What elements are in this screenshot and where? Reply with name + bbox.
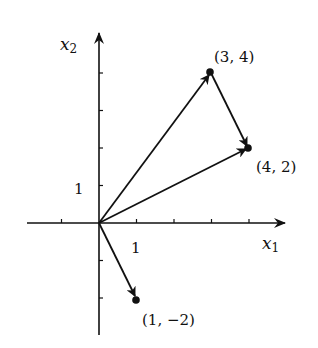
y-axis-label: x2: [60, 34, 77, 56]
vector-origin-to-1-neg2: [99, 223, 135, 296]
point-label-1-neg2: (1, −2): [142, 311, 195, 329]
x-tick-label-1: 1: [131, 239, 141, 257]
point-4-2: [244, 144, 252, 152]
vector-origin-to-3-4: [99, 75, 209, 223]
point-label-4-2: (4, 2): [256, 158, 296, 176]
point-1-neg2: [132, 296, 140, 304]
point-3-4: [206, 68, 214, 76]
vector-3-4-to-4-2: [211, 73, 247, 146]
point-label-3-4: (3, 4): [214, 48, 254, 66]
vector-origin-to-4-2: [99, 149, 246, 223]
x-axis-label: x1: [262, 233, 279, 255]
vector-diagram: x2 x1 1 1 (3, 4) (4, 2) (1, −2): [0, 0, 318, 348]
y-tick-label-1: 1: [74, 180, 84, 198]
